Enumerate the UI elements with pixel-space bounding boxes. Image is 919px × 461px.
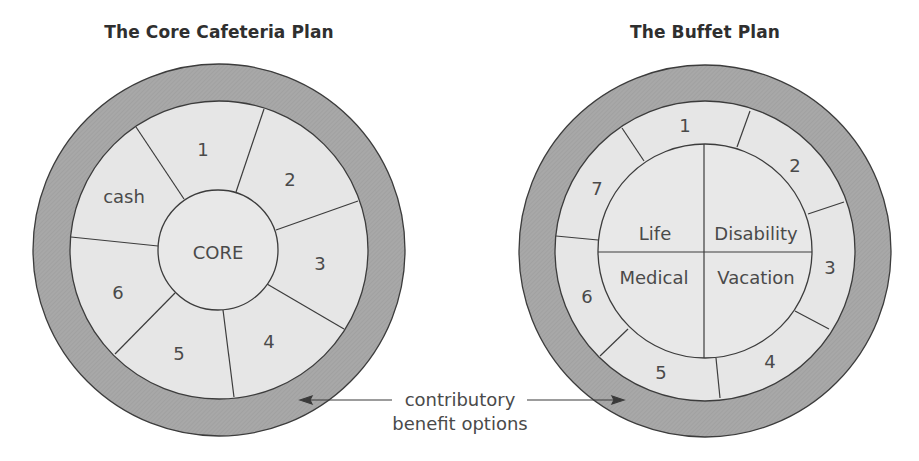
core-cafeteria-wheel: CORE 1 2 3 4 5 6 cash: [33, 64, 405, 436]
right-segment-3: 3: [824, 257, 835, 278]
left-segment-cash: cash: [103, 186, 145, 207]
core-label: CORE: [193, 242, 244, 263]
annotation-line-2: benefit options: [392, 412, 527, 436]
left-segment-6: 6: [112, 282, 123, 303]
left-segment-5: 5: [173, 343, 184, 364]
buffet-wheel: Life Disability Medical Vacation 1 2 3 4…: [519, 65, 891, 437]
buffet-core-circle: [598, 144, 812, 358]
right-segment-2: 2: [789, 155, 800, 176]
left-segment-3: 3: [314, 253, 325, 274]
quadrant-medical: Medical: [620, 267, 689, 288]
right-segment-5: 5: [655, 362, 666, 383]
contributory-benefit-options-label: contributory benefit options: [392, 388, 527, 436]
right-segment-1: 1: [679, 115, 690, 136]
right-segment-7: 7: [591, 178, 602, 199]
left-segment-4: 4: [263, 331, 274, 352]
left-segment-2: 2: [284, 169, 295, 190]
annotation-line-1: contributory: [392, 388, 527, 412]
right-segment-4: 4: [764, 351, 775, 372]
quadrant-life: Life: [639, 223, 671, 244]
right-segment-6: 6: [581, 286, 592, 307]
quadrant-vacation: Vacation: [717, 267, 794, 288]
left-segment-1: 1: [197, 139, 208, 160]
quadrant-disability: Disability: [714, 223, 798, 244]
